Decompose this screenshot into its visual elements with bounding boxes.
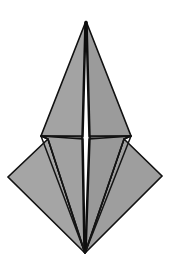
crease-horizontal-base-left: [41, 136, 83, 137]
figure-canvas: [0, 0, 174, 271]
crease-horizontal-base-right: [89, 136, 131, 137]
polygon-figure-svg: [0, 0, 174, 271]
